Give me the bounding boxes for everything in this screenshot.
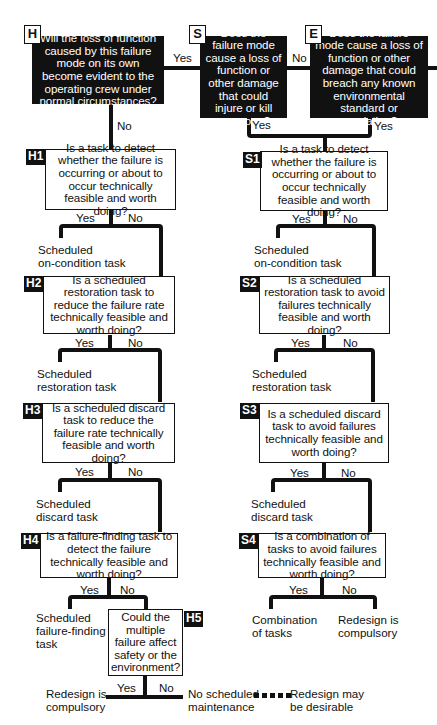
edge-h4-no-label: No bbox=[120, 584, 135, 597]
edge-h2-yes-label: Yes bbox=[75, 337, 94, 350]
outcome-h3-discard-task: Scheduled discard task bbox=[36, 498, 98, 524]
edge-h5-yes-label: Yes bbox=[117, 682, 136, 695]
edge-s4-yes-label: Yes bbox=[289, 584, 308, 597]
outcome-s2-restoration-task: Scheduled restoration task bbox=[252, 368, 331, 394]
node-s2-tag: S2 bbox=[240, 276, 259, 292]
outcome-s4-redesign-compulsory: Redesign is compulsory bbox=[338, 614, 399, 640]
outcome-s4-combination-of-tasks: Combination of tasks bbox=[252, 614, 317, 640]
node-h2-question: Is a scheduled restoration task to reduc… bbox=[43, 276, 175, 334]
node-s2-question: Is a scheduled restoration task to avoid… bbox=[259, 276, 390, 334]
edge-s1-no-label: No bbox=[343, 213, 358, 226]
node-s1-tag: S1 bbox=[243, 152, 262, 168]
node-s3-tag: S3 bbox=[240, 403, 259, 419]
edge-e-yes-label: Yes bbox=[374, 120, 393, 133]
edge-h3-no-label: No bbox=[128, 466, 143, 479]
node-h4-tag: H4 bbox=[21, 533, 40, 549]
node-h1-question: Is a task to detect whether the failure … bbox=[45, 149, 176, 210]
edge-h3-yes-label: Yes bbox=[75, 466, 94, 479]
edge-h-yes-label: Yes bbox=[173, 52, 192, 65]
node-h4-question: Is a failure-finding task to detect the … bbox=[40, 533, 178, 578]
node-h2-tag: H2 bbox=[24, 276, 43, 292]
edge-s2-yes-label: Yes bbox=[291, 337, 310, 350]
edge-h-no-label: No bbox=[117, 120, 132, 133]
node-s1-question: Is a task to detect whether the failure … bbox=[260, 151, 388, 211]
node-h3-question: Is a scheduled discard task to reduce th… bbox=[42, 403, 175, 463]
node-s4-tag: S4 bbox=[239, 533, 258, 549]
outcome-h5-no-scheduled-maintenance: No scheduled maintenance bbox=[188, 688, 259, 714]
node-h-tag: H bbox=[24, 25, 41, 44]
node-h-question: Will the loss of function caused by this… bbox=[32, 36, 164, 104]
node-s3-question: Is a scheduled discard task to avoid fai… bbox=[259, 403, 389, 463]
node-e-tag: E bbox=[305, 25, 322, 44]
edge-h2-no-label: No bbox=[128, 337, 143, 350]
edge-h5-no-label: No bbox=[159, 682, 174, 695]
edge-s1-yes-label: Yes bbox=[292, 213, 311, 226]
rcm-decision-diagram: Will the loss of function caused by this… bbox=[0, 0, 437, 725]
node-e-question: Does the failure mode cause a loss of fu… bbox=[310, 36, 428, 118]
edge-s2-no-label: No bbox=[343, 337, 358, 350]
outcome-h5-redesign-compulsory: Redesign is compulsory bbox=[46, 688, 107, 714]
node-h5-question: Could the multiple failure affect safety… bbox=[108, 609, 183, 676]
node-h5-tag: H5 bbox=[184, 611, 203, 627]
node-s4-question: Is a combination of tasks to avoid failu… bbox=[258, 533, 386, 578]
outcome-h5-redesign-may-be-desirable: Redesign may be desirable bbox=[290, 688, 364, 714]
edge-s-no-label: No bbox=[292, 52, 307, 65]
outcome-h2-restoration-task: Scheduled restoration task bbox=[37, 368, 116, 394]
edge-h1-no-label: No bbox=[128, 212, 143, 225]
outcome-h1-on-condition-task: Scheduled on-condition task bbox=[38, 244, 126, 270]
edge-s3-no-label: No bbox=[341, 467, 356, 480]
outcome-s3-discard-task: Scheduled discard task bbox=[251, 498, 313, 524]
edge-h1-yes-label: Yes bbox=[76, 212, 95, 225]
edge-s-yes-label: Yes bbox=[252, 119, 271, 132]
edge-h4-yes-label: Yes bbox=[80, 584, 99, 597]
node-s-question: Does the failure mode cause a loss of fu… bbox=[200, 36, 287, 118]
outcome-s1-on-condition-task: Scheduled on-condition task bbox=[254, 244, 342, 270]
outcome-h4-failure-finding-task: Scheduled failure-finding task bbox=[36, 612, 106, 650]
edge-s4-no-label: No bbox=[342, 584, 357, 597]
node-h3-tag: H3 bbox=[23, 403, 42, 419]
edge-s3-yes-label: Yes bbox=[290, 467, 309, 480]
node-h1-tag: H1 bbox=[26, 149, 45, 165]
node-s-tag: S bbox=[189, 25, 206, 44]
